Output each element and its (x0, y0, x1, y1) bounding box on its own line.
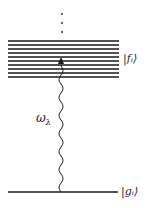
ground-state-label: |gᵢ⟩ (121, 186, 138, 197)
energy-level-diagram (0, 0, 149, 208)
omega-symbol: ω (36, 111, 46, 125)
photon-frequency-label: ωλ (36, 112, 51, 127)
final-state-levels (8, 41, 119, 77)
photon-wavy-line (59, 65, 63, 192)
final-state-label: |fᵢ⟩ (123, 53, 137, 64)
continuation-dots (61, 13, 63, 33)
lambda-subscript: λ (46, 118, 51, 127)
